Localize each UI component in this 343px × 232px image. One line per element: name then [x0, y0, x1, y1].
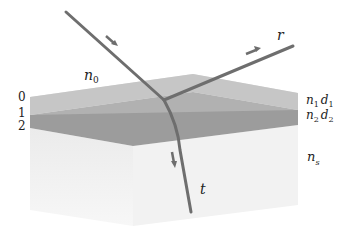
reflected-arrow-icon	[246, 50, 256, 54]
interface-0-label: 0	[18, 90, 26, 104]
substrate-index-label: ns	[307, 149, 319, 167]
layer-1	[30, 74, 298, 115]
interface-1-label: 1	[18, 106, 26, 120]
transmitted-label: t	[200, 181, 206, 197]
layer-1-label: n1d1	[306, 93, 334, 109]
reflected-label: r	[277, 27, 285, 43]
layer-2-label: n2d2	[306, 108, 334, 124]
ambient-index-label: n0	[84, 67, 99, 85]
thin-film-diagram: n0 0 1 2 n1d1 n2d2 ns r t	[0, 0, 343, 232]
interface-2-label: 2	[18, 119, 26, 133]
